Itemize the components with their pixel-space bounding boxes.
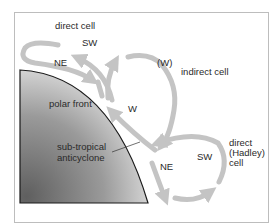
- hadley-cell-bottom-arrow: [175, 192, 210, 200]
- label-subtropical-1: sub-tropical: [57, 141, 106, 152]
- label-hadley-3: cell: [229, 157, 243, 168]
- direct-cell-vertical: [98, 82, 102, 96]
- label-sw-bottom: SW: [197, 151, 212, 162]
- hadley-cell-return-arrow: [158, 137, 224, 183]
- label-polar-front: polar front: [49, 98, 92, 109]
- label-w-mid: W: [128, 103, 137, 114]
- label-indirect-cell: indirect cell: [181, 66, 229, 77]
- label-ne-bottom: NE: [160, 161, 173, 172]
- polar-region: [20, 70, 148, 203]
- circulation-diagram: [0, 0, 280, 224]
- label-ne-top: NE: [54, 57, 67, 68]
- label-subtropical-2: anticyclone: [57, 152, 105, 163]
- label-direct-cell: direct cell: [55, 20, 95, 31]
- label-w-paren: (W): [157, 57, 172, 68]
- label-sw-top: SW: [82, 37, 97, 48]
